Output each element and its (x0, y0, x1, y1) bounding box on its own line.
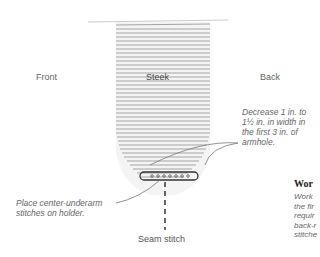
decrease-line-3: the first 3 in. of (242, 127, 306, 137)
holder-line-1: Place center-underarm (16, 198, 102, 208)
front-label: Front (36, 72, 57, 82)
side-line-3: requir (294, 211, 320, 221)
steek-knit-body (116, 22, 210, 195)
side-line-4: back-r (294, 221, 320, 231)
seam-stitch-label: Seam stitch (138, 234, 185, 244)
holder-line-2: stitches on holder. (16, 208, 102, 218)
back-label: Back (260, 72, 280, 82)
side-text-column: Wor Work the fir requir back-r stitche (294, 178, 320, 240)
steek-label: Steek (146, 72, 169, 82)
decrease-line-2: 1½ in. in width in (242, 117, 306, 127)
decrease-line-1: Decrease 1 in. to (242, 107, 306, 117)
decrease-annotation: Decrease 1 in. to 1½ in. in width in the… (242, 107, 306, 147)
side-line-1: Work (294, 192, 320, 202)
side-heading: Wor (294, 178, 320, 189)
holder-annotation: Place center-underarm stitches on holder… (16, 198, 102, 218)
side-line-2: the fir (294, 202, 320, 212)
decrease-line-4: armhole. (242, 137, 306, 147)
side-line-5: stitche (294, 230, 320, 240)
